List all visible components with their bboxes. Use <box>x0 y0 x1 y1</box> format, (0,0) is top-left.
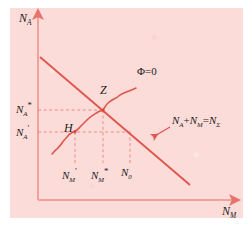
x-tick-label-nm-star: NM* <box>91 167 108 184</box>
point-h-dot <box>74 131 77 134</box>
x-tick-label-n0: N0 <box>121 167 132 181</box>
curve-label-conservation: NA+NM=NΣ <box>172 115 220 129</box>
figure-canvas: NA NM NA* NA′ NM′ NM* N0 Z H Φ=0 NA+NM=N… <box>0 0 252 233</box>
x-axis-label: NM <box>222 205 236 220</box>
point-label-z: Z <box>100 84 107 96</box>
x-tick-label-nm-prime: NM′ <box>62 167 77 184</box>
point-z-dot <box>101 108 104 111</box>
conservation-line <box>40 57 190 185</box>
point-label-h: H <box>64 122 73 134</box>
curve-label-phi-zero: Φ=0 <box>137 66 157 77</box>
y-axis-label: NA <box>19 12 32 27</box>
sum-arrow <box>153 127 170 137</box>
y-tick-label-na-prime: NA′ <box>16 124 29 141</box>
y-tick-label-na-star: NA* <box>16 101 32 118</box>
